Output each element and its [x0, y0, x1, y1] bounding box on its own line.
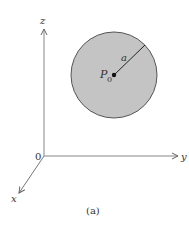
center-subscript: 0	[107, 75, 112, 84]
figure-caption: (a)	[86, 205, 100, 216]
origin-label: 0	[35, 151, 41, 162]
sphere-diagram: z y x 0 a P 0 (a)	[0, 0, 189, 230]
y-axis-label: y	[180, 151, 187, 162]
center-point	[112, 73, 116, 77]
x-axis-label: x	[11, 193, 17, 204]
z-axis-label: z	[39, 15, 46, 26]
radius-label: a	[121, 52, 127, 63]
